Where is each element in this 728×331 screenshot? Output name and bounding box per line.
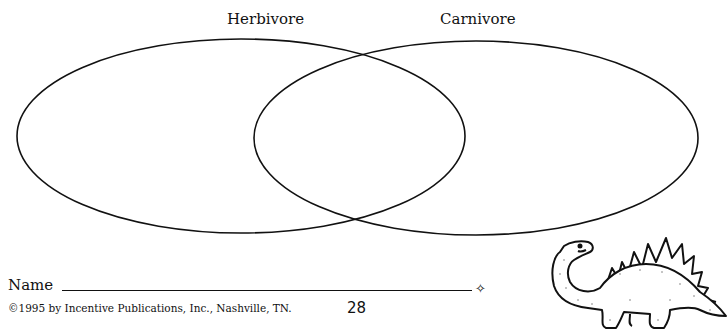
herbivore-circle bbox=[17, 39, 465, 233]
name-field-line[interactable] bbox=[62, 290, 472, 291]
page-number: 28 bbox=[347, 299, 366, 317]
name-label: Name bbox=[8, 276, 53, 294]
carnivore-circle bbox=[254, 41, 698, 235]
diamond-icon: ✧ bbox=[475, 281, 486, 296]
copyright-text: ©1995 by Incentive Publications, Inc., N… bbox=[8, 302, 292, 314]
stegosaurus-icon bbox=[530, 230, 728, 331]
